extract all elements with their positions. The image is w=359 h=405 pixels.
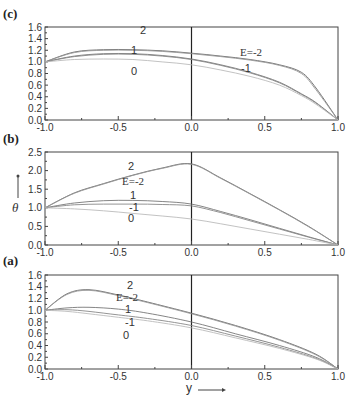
curve-label-em1: -1 xyxy=(241,62,251,74)
x-axis-title: y xyxy=(186,381,192,395)
y-axis-title-group: θ xyxy=(12,175,20,216)
y-tick-label: 0.8 xyxy=(28,68,42,79)
curve-label-e2: 2 xyxy=(128,160,134,172)
x-tick-label: 0.5 xyxy=(258,371,272,382)
panel-b: (b)0.00.51.01.52.02.5-1.0-0.50.00.51.02E… xyxy=(3,131,345,258)
panel-label: (c) xyxy=(3,6,17,21)
panel-a: (a)0.00.20.40.60.81.01.21.41.6-1.0-0.50.… xyxy=(3,253,345,382)
panel-c: (c)0.00.20.40.60.81.01.21.41.6-1.0-0.50.… xyxy=(3,6,345,133)
x-axis-title-group: y xyxy=(186,381,226,395)
y-tick-label: 1.0 xyxy=(28,305,42,316)
y-tick-label: 1.2 xyxy=(28,45,42,56)
y-tick-label: 1.2 xyxy=(28,293,42,304)
curve-label-e1: 1 xyxy=(130,189,136,201)
y-tick-label: 0.5 xyxy=(28,221,42,232)
y-tick-label: 0.8 xyxy=(28,317,42,328)
y-tick-label: 1.4 xyxy=(28,281,42,292)
x-axis-arrowhead-icon xyxy=(222,388,226,392)
y-tick-label: 2.0 xyxy=(28,165,42,176)
x-tick-label: 0.5 xyxy=(258,122,272,133)
curve-label-e1: 1 xyxy=(131,44,137,56)
x-tick-label: -1.0 xyxy=(36,371,54,382)
x-tick-label: 1.0 xyxy=(331,122,345,133)
curve-label-em1: -1 xyxy=(125,316,135,328)
x-tick-label: 0.0 xyxy=(185,122,199,133)
panel-label: (a) xyxy=(3,253,18,268)
curve-label-em2: E=-2 xyxy=(122,175,144,187)
panel-label: (b) xyxy=(3,131,19,146)
figure-canvas: (c)0.00.20.40.60.81.01.21.41.6-1.0-0.50.… xyxy=(0,0,359,405)
curve-label-e2: 2 xyxy=(127,279,133,291)
x-tick-label: 1.0 xyxy=(331,371,345,382)
y-tick-label: 0.2 xyxy=(28,103,42,114)
x-tick-label: -0.5 xyxy=(110,371,128,382)
x-tick-label: -0.5 xyxy=(110,122,128,133)
curve-label-em2: E=-2 xyxy=(116,291,138,303)
y-axis-arrowhead-icon xyxy=(17,175,20,178)
curve-label-em2: E=-2 xyxy=(240,46,262,58)
y-tick-label: 1.5 xyxy=(28,184,42,195)
x-tick-label: -0.5 xyxy=(110,247,128,258)
x-tick-label: 1.0 xyxy=(331,247,345,258)
x-tick-label: 0.0 xyxy=(185,247,199,258)
curve-label-e2: 2 xyxy=(140,24,146,36)
x-tick-label: 0.5 xyxy=(258,247,272,258)
curve-label-e0: 0 xyxy=(123,329,129,341)
panels: (c)0.00.20.40.60.81.01.21.41.6-1.0-0.50.… xyxy=(3,6,345,382)
y-tick-label: 2.5 xyxy=(28,147,42,158)
y-axis-title: θ xyxy=(12,200,19,215)
y-tick-label: 1.6 xyxy=(28,22,42,33)
y-tick-label: 1.6 xyxy=(28,270,42,281)
curve-label-e0: 0 xyxy=(131,65,137,77)
y-tick-label: 0.6 xyxy=(28,328,42,339)
x-tick-label: -1.0 xyxy=(36,247,54,258)
y-tick-label: 1.4 xyxy=(28,33,42,44)
y-tick-label: 1.0 xyxy=(28,56,42,67)
curve-label-e1: 1 xyxy=(125,303,131,315)
y-tick-label: 0.4 xyxy=(28,91,42,102)
y-tick-label: 0.4 xyxy=(28,340,42,351)
y-tick-label: 0.6 xyxy=(28,80,42,91)
y-tick-label: 0.2 xyxy=(28,352,42,363)
y-tick-label: 1.0 xyxy=(28,202,42,213)
curve-label-e0: 0 xyxy=(128,212,134,224)
x-tick-label: -1.0 xyxy=(36,122,54,133)
